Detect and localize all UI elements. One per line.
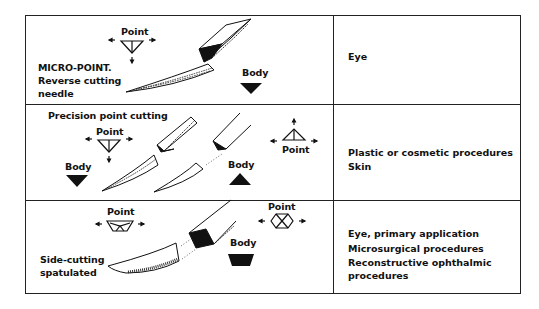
use-line-1: Eye, primary application [348, 227, 479, 241]
needle-tip-icon [108, 239, 196, 273]
point-cross-section-icon [86, 138, 132, 163]
table-row-precision-point: Precision point cutting Point Body Body … [26, 105, 520, 201]
table-row-micro-point: Point MICRO-POINT. Reverse cutting needl… [26, 16, 520, 105]
point-cross-section-icon [109, 39, 155, 64]
needle-shaft-icon [199, 19, 251, 62]
needle-types-table: Point MICRO-POINT. Reverse cutting needl… [25, 15, 521, 294]
point-cross-section-icon-2 [259, 214, 305, 228]
body-cross-section-icon [228, 254, 254, 266]
needle-tip-outline-icon [154, 154, 222, 192]
use-line-2: Microsurgical procedures [348, 242, 484, 256]
precision-point-needle-illustration [26, 105, 333, 201]
micro-point-needle-illustration [26, 16, 333, 105]
side-cutting-needle-illustration [26, 201, 333, 295]
body-cross-section-icon-2 [229, 173, 251, 185]
table-row-side-cutting: Point Side-cutting spatulated Body Point [26, 201, 520, 295]
needle-shaft-outline-icon [213, 113, 251, 150]
use-line-2: Skin [348, 160, 371, 174]
body-cross-section-icon [66, 175, 88, 187]
needle-shaft-icon [189, 200, 236, 248]
use-line: Eye [348, 50, 367, 64]
use-line-4: procedures [348, 269, 408, 283]
use-line-3: Reconstructive ophthalmic [348, 256, 492, 270]
use-line-1: Plastic or cosmetic procedures [348, 146, 513, 160]
needle-tip-icon [126, 64, 214, 92]
point-cross-section-icon-2 [271, 119, 317, 143]
needle-shaft-icon [157, 117, 197, 152]
point-cross-section-icon [96, 221, 144, 231]
body-cross-section-icon [240, 83, 262, 94]
